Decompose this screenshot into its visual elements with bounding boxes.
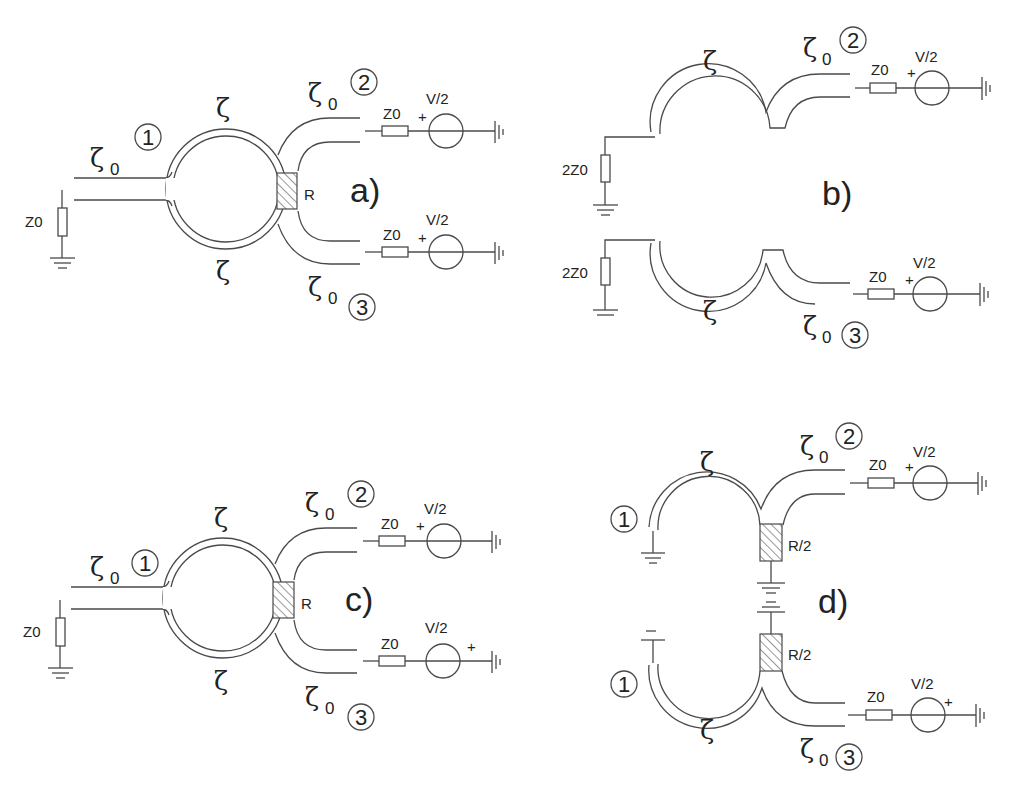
port-number: 3 [849, 323, 861, 348]
ground-icon [495, 121, 503, 143]
panel-label: d) [818, 582, 848, 620]
impedance-label: ζ [90, 143, 104, 173]
ground-icon [492, 651, 500, 673]
impedance-label: ζ [308, 272, 322, 302]
source-res-label: Z0 [383, 226, 401, 243]
impedance-label: ζ [305, 488, 319, 518]
output-arm-top-outer [278, 118, 360, 155]
load-label: Z0 [25, 213, 43, 230]
panel-d: Z0 V/2 + Z0 V/2 + ζ ζ ζ 0 ζ 0 R/2 R/2 d)… [611, 423, 986, 770]
ground-icon [976, 704, 984, 727]
source-res-label: Z0 [381, 635, 399, 652]
source-res-label: Z0 [869, 268, 887, 285]
impedance-subscript: 0 [325, 505, 334, 524]
impedance-label: ζ [803, 311, 817, 341]
source-polarity: + [418, 229, 427, 246]
load-label: Z0 [23, 623, 41, 640]
port-number: 1 [139, 551, 151, 576]
impedance-subscript: 0 [819, 448, 828, 467]
source-res-label: Z0 [383, 105, 401, 122]
impedance-subscript: 0 [328, 95, 337, 114]
port-number: 2 [843, 424, 855, 449]
ground-icon [492, 531, 500, 553]
ground-icon [641, 553, 665, 563]
impedance-label: ζ [800, 431, 814, 461]
source-polarity: + [905, 271, 914, 288]
arc-label-top: ζ [703, 46, 717, 76]
impedance-subscript: 0 [822, 328, 831, 347]
source-volt-label: V/2 [426, 211, 449, 228]
isolation-resistor [273, 582, 294, 618]
impedance-subscript: 0 [325, 699, 334, 718]
resistor-label: R [301, 595, 312, 612]
port-number: 1 [142, 125, 154, 150]
resistor-label: R [304, 186, 315, 203]
ground-icon [495, 242, 503, 264]
output-arm-bottom-outer [278, 224, 360, 264]
panel-label: c) [345, 580, 373, 618]
source-polarity: + [467, 638, 476, 655]
panel-b: 2Z0 2Z0 Z0 V/2 + Z0 V/2 + ζ ζ ζ 0 [562, 27, 990, 348]
impedance-subscript: 0 [819, 751, 828, 770]
impedance-label: ζ [800, 734, 814, 764]
ring-inner [173, 136, 279, 242]
port-number: 2 [358, 70, 370, 95]
arc-label-top: ζ [700, 447, 714, 477]
impedance-subscript: 0 [822, 50, 831, 69]
ring-label-top: ζ [216, 93, 230, 123]
arc-top-inner [660, 76, 850, 134]
output-arm-top-inner [298, 142, 360, 171]
input-line-bottom [74, 200, 172, 206]
ground-icon [978, 472, 986, 495]
ground-icon [641, 631, 665, 640]
impedance-label: ζ [803, 33, 817, 63]
port-number: 2 [847, 28, 859, 53]
input-line-top [74, 172, 172, 178]
impedance-label: ζ [90, 552, 104, 582]
isolation-resistor [277, 173, 297, 209]
panel-label: a) [350, 171, 380, 209]
resistor-label: R/2 [788, 646, 811, 663]
ground-icon [980, 283, 988, 306]
source-polarity: + [907, 64, 916, 81]
arc-bottom-outer [650, 243, 815, 311]
panel-label: b) [822, 174, 852, 212]
source-res-label: Z0 [381, 515, 399, 532]
ground-icon [593, 310, 618, 315]
source-volt-label: V/2 [913, 254, 936, 271]
ring-label-bottom: ζ [216, 256, 230, 286]
load-label: 2Z0 [562, 161, 588, 178]
ground-icon [757, 602, 785, 612]
source-volt-label: V/2 [424, 500, 447, 517]
port-number: 1 [618, 507, 630, 532]
resistor-r2-top [760, 524, 782, 561]
port-number: 3 [356, 295, 368, 320]
ring-outer [163, 538, 283, 658]
ground-icon [48, 668, 73, 678]
arc-label-bottom: ζ [700, 715, 714, 745]
impedance-subscript: 0 [110, 160, 119, 179]
load-resistor [56, 618, 65, 646]
source-polarity: + [905, 458, 914, 475]
panel-a: Z0 Z0 V/2 + Z0 V/2 + ζ 0 ζ ζ ζ 0 ζ 0 R [25, 69, 503, 320]
ring-inner [170, 545, 276, 651]
ring-label-top: ζ [214, 503, 228, 533]
output-arm-bottom-inner [298, 211, 360, 241]
port-number: 3 [843, 745, 855, 770]
impedance-subscript: 0 [110, 569, 119, 588]
ground-icon [50, 258, 75, 268]
arc-label-bottom: ζ [703, 296, 717, 326]
ground-icon [757, 583, 785, 593]
load-label: 2Z0 [562, 264, 588, 281]
resistor-label: R/2 [788, 537, 811, 554]
ring-outer [166, 129, 286, 249]
load-resistor [601, 155, 610, 182]
load-resistor [601, 258, 610, 285]
arc-top-outer [650, 64, 850, 132]
source-volt-label: V/2 [913, 443, 936, 460]
source-res-label: Z0 [871, 61, 889, 78]
source-polarity: + [416, 517, 425, 534]
source-polarity: + [418, 108, 427, 125]
impedance-label: ζ [308, 78, 322, 108]
port-number: 2 [355, 482, 367, 507]
